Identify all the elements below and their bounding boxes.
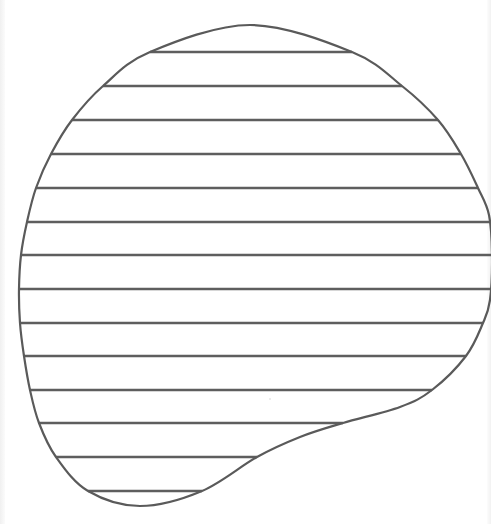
hatch-lines [19, 52, 491, 491]
scan-speck [269, 398, 271, 400]
blob-outline [19, 25, 491, 506]
document-page [0, 0, 491, 524]
hatched-blob-figure [0, 0, 491, 524]
